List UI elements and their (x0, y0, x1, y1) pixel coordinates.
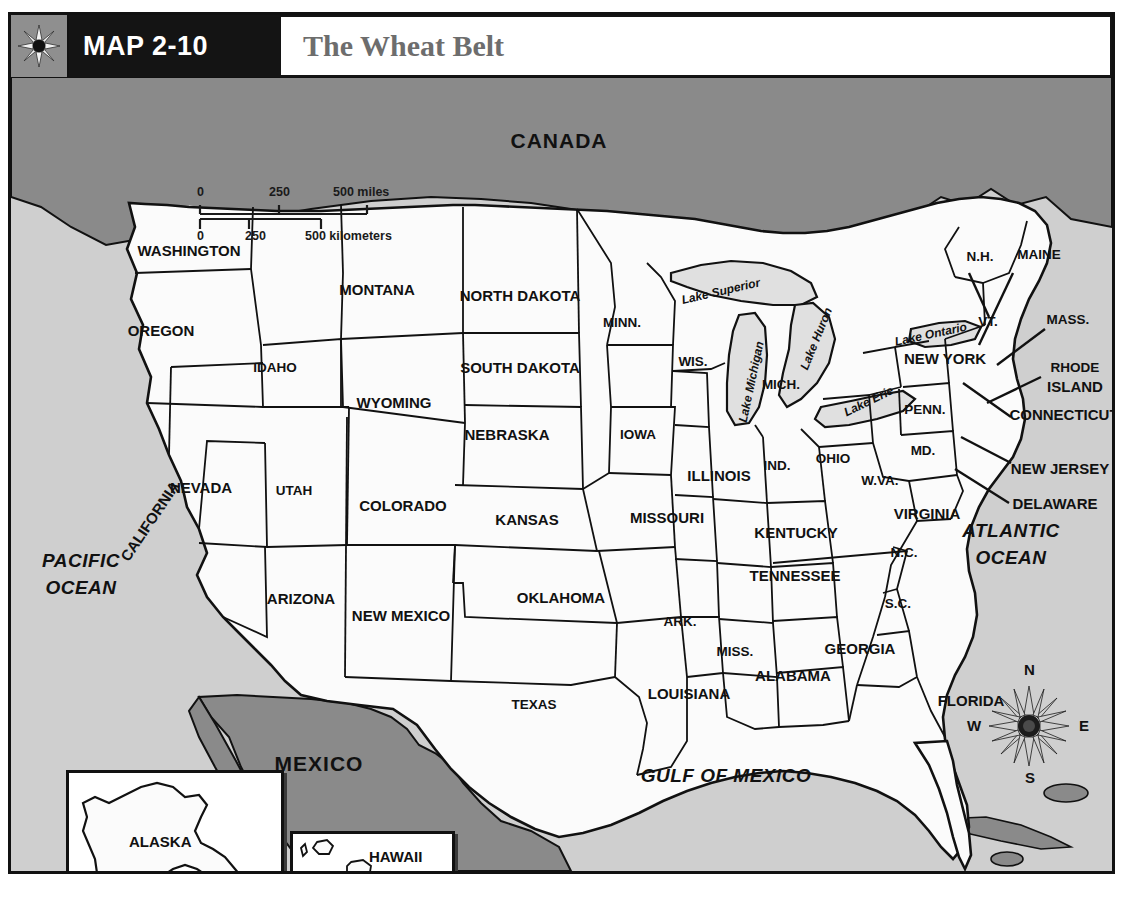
state-label: TENNESSEE (750, 567, 841, 584)
scale-km-zero: 0 (197, 229, 204, 243)
state-label: KENTUCKY (754, 524, 837, 541)
compass-label-west: W (967, 717, 981, 734)
united-states-map: Lake Superior Lake Michigan Lake Huron L… (11, 77, 1112, 871)
state-label: MICH. (762, 377, 800, 392)
scale-miles-zero: 0 (197, 185, 204, 199)
state-label: NEBRASKA (464, 426, 549, 443)
state-label: N.H. (967, 249, 994, 264)
state-label: W.VA. (861, 473, 898, 488)
state-label: WIS. (678, 354, 707, 369)
inset-map-alaska: ALASKA 0 300 mi. 0 300 km (66, 770, 284, 871)
state-label: DELAWARE (1012, 495, 1097, 512)
state-label: ARK. (664, 614, 697, 629)
inset-label-hawaii: HAWAII (369, 848, 422, 865)
state-label: MISSOURI (630, 509, 704, 526)
state-label: OREGON (128, 322, 195, 339)
ocean-label-atlantic-2: OCEAN (975, 547, 1047, 568)
state-label: UTAH (276, 483, 313, 498)
map-title-block: The Wheat Belt (281, 15, 1112, 77)
state-label: IOWA (620, 427, 656, 442)
state-label: VIRGINIA (894, 505, 961, 522)
state-label: KANSAS (495, 511, 558, 528)
compass-label-south: S (1025, 769, 1035, 786)
state-label: ISLAND (1047, 378, 1103, 395)
state-label: VT. (978, 314, 998, 329)
state-label: RHODE (1051, 360, 1100, 375)
state-label: ALABAMA (755, 667, 831, 684)
page-title: The Wheat Belt (303, 29, 504, 63)
map-canvas: Lake Superior Lake Michigan Lake Huron L… (11, 77, 1112, 871)
scale-bar: 0 250 500 miles 0 250 500 kilometers (197, 185, 417, 243)
state-label: NEW JERSEY (1011, 460, 1109, 477)
state-label: S.C. (885, 596, 911, 611)
compass-label-north: N (1024, 661, 1035, 678)
state-label: MAINE (1017, 247, 1061, 262)
compass-rose-icon (986, 683, 1072, 769)
state-label: NORTH DAKOTA (460, 287, 581, 304)
state-label: ARIZONA (267, 590, 335, 607)
state-label: MINN. (603, 315, 641, 330)
state-label: IDAHO (253, 360, 297, 375)
scale-km-mid: 250 (245, 229, 266, 243)
state-label: COLORADO (359, 497, 447, 514)
ocean-label-atlantic: ATLANTIC (961, 520, 1060, 541)
state-label: MASS. (1047, 312, 1090, 327)
ocean-label-pacific: PACIFIC (42, 550, 120, 571)
map-header: MAP 2-10 The Wheat Belt (11, 15, 1112, 77)
compass-rose: N S W E (969, 665, 1089, 787)
state-label: CONNECTICUT (1009, 406, 1112, 423)
ocean-label-pacific-2: OCEAN (45, 577, 117, 598)
compass-label-east: E (1079, 717, 1089, 734)
state-label: PENN. (904, 402, 945, 417)
state-label: NEW YORK (904, 350, 986, 367)
map-number-block: MAP 2-10 (69, 15, 281, 77)
alaska-shape (69, 773, 275, 871)
ocean-label-gulf: GULF OF MEXICO (641, 765, 812, 786)
state-label: NEW MEXICO (352, 607, 451, 624)
state-label: LOUISIANA (648, 685, 731, 702)
country-label-mexico: MEXICO (275, 752, 364, 775)
map-number: MAP 2-10 (83, 31, 208, 62)
state-label: MISS. (717, 644, 754, 659)
state-label: SOUTH DAKOTA (460, 359, 580, 376)
state-label: OKLAHOMA (517, 589, 605, 606)
state-label: GEORGIA (825, 640, 896, 657)
inset-map-hawaii: HAWAII 0 100 mi. 0 100 km (290, 831, 455, 871)
state-label: WYOMING (357, 394, 432, 411)
country-label-canada: CANADA (511, 129, 608, 152)
compass-star-icon (11, 15, 69, 77)
state-label: WASHINGTON (137, 242, 240, 259)
state-label: MONTANA (339, 281, 415, 298)
inset-label-alaska: ALASKA (129, 833, 192, 850)
state-label: N.C. (891, 545, 918, 560)
scale-miles-mid: 250 (269, 185, 290, 199)
state-label: TEXAS (511, 697, 556, 712)
map-page: MAP 2-10 The Wheat Belt (0, 0, 1127, 913)
state-label: ILLINOIS (687, 467, 750, 484)
state-label: MD. (911, 443, 936, 458)
state-label: OHIO (816, 451, 851, 466)
state-label: IND. (764, 458, 791, 473)
scale-miles-max: 500 miles (333, 185, 389, 199)
scale-km-max: 500 kilometers (305, 229, 392, 243)
